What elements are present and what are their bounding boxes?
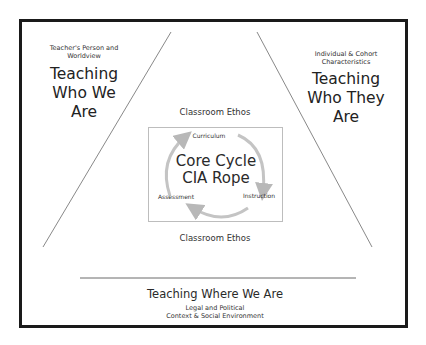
core-cycle-title: Core Cycle CIA Rope — [162, 153, 270, 188]
cycle-label-curriculum: Curriculum — [186, 132, 232, 139]
cycle-label-instruction-text: Instruction — [243, 192, 275, 199]
bottom-subtitle: Legal and Political Context & Social Env… — [120, 304, 310, 321]
bottom-subtitle-line-2: Context & Social Environment — [120, 312, 310, 320]
core-cycle-line-1: Core Cycle — [162, 153, 270, 170]
cycle-label-assessment-text: Assessment — [158, 193, 194, 200]
bottom-title-text: Teaching Where We Are — [147, 287, 283, 301]
bottom-subtitle-line-1: Legal and Political — [120, 304, 310, 312]
cycle-label-instruction: Instruction — [237, 192, 281, 199]
classroom-ethos-bottom-text: Classroom Ethos — [180, 233, 251, 243]
cycle-label-assessment: Assessment — [154, 193, 198, 200]
arrow-instruction-to-assessment — [193, 208, 248, 217]
core-cycle-line-2: CIA Rope — [162, 170, 270, 187]
classroom-ethos-bottom: Classroom Ethos — [160, 233, 270, 243]
bottom-title: Teaching Where We Are — [100, 288, 330, 302]
cycle-label-curriculum-text: Curriculum — [193, 132, 226, 139]
